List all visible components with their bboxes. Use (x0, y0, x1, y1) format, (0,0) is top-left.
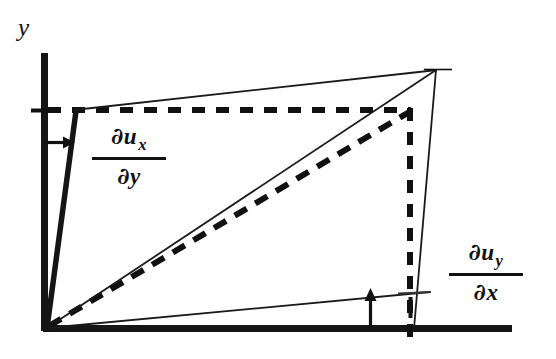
shear-strain-diagram (0, 0, 556, 359)
reference-square-dashed (48, 108, 411, 340)
du-y-arrow-head (365, 288, 377, 301)
tickmarks-group (31, 70, 452, 319)
reference-diagonal-dashed (49, 111, 411, 326)
figure-root: y ∂ux ∂y ∂uy ∂x (0, 0, 556, 359)
deformed-right-edge (414, 70, 436, 329)
du-y-arrow-group (365, 288, 377, 327)
deformed-top-edge (74, 70, 437, 110)
dashed-diagonal (49, 111, 411, 326)
